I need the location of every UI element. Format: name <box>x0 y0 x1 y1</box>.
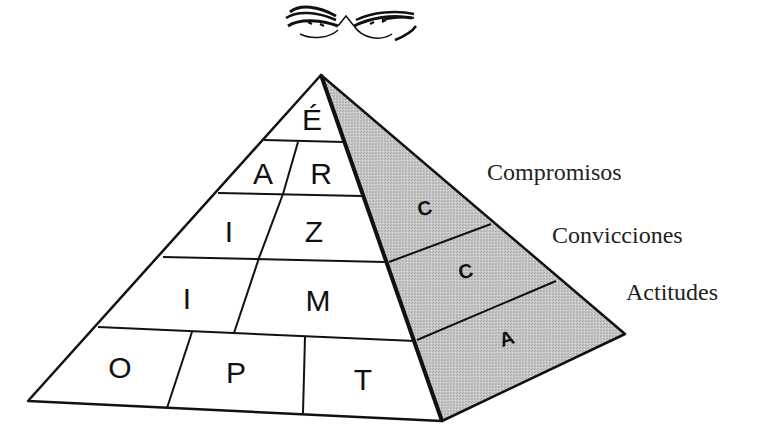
flourish-ornament <box>286 7 416 40</box>
cell-row4-2: M <box>306 284 331 317</box>
label-compromisos: Compromisos <box>487 159 622 185</box>
cell-row3-1: I <box>225 215 233 248</box>
cell-row2-1: A <box>253 157 273 190</box>
cell-row5-1: O <box>108 351 131 384</box>
cell-row1-1: É <box>302 103 322 136</box>
cell-row2-2: R <box>310 157 332 190</box>
label-actitudes: Actitudes <box>626 279 718 305</box>
cell-row3-2: Z <box>305 215 323 248</box>
pyramid-diagram: É A R I Z I M O P T C C A Compromisos Co… <box>0 0 760 446</box>
cell-row5-3: T <box>354 363 372 396</box>
cell-row4-1: I <box>183 282 191 315</box>
cell-row5-2: P <box>226 356 246 389</box>
label-convicciones: Convicciones <box>552 222 683 248</box>
